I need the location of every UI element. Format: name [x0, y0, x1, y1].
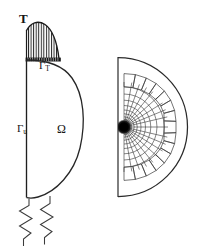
traction-hatch-fill — [24, 18, 62, 60]
figure-root: T ΓT Γu Ω — [0, 0, 201, 250]
omega-label: Ω — [57, 123, 66, 135]
domain-curved-boundary — [27, 60, 84, 198]
support-spring-left — [20, 199, 33, 247]
figure-canvas — [0, 0, 201, 250]
gamma-t-subscript: T — [45, 64, 50, 73]
traction-label: T — [19, 12, 28, 25]
domain-outline — [27, 60, 84, 199]
support-springs — [20, 196, 54, 246]
gamma-u-label: Γu — [17, 123, 27, 136]
gamma-u-subscript: u — [23, 127, 27, 136]
mesh-grid — [116, 74, 176, 181]
gamma-t-label: ΓT — [39, 60, 50, 73]
mesh-singularity-core — [120, 123, 128, 131]
support-spring-right — [41, 196, 54, 245]
traction-profile — [24, 18, 62, 60]
